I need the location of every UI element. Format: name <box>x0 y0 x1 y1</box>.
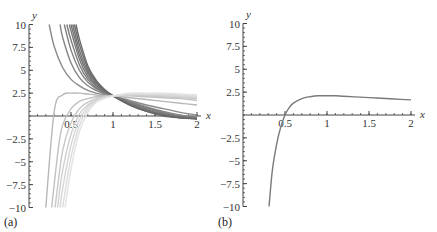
curve-solution <box>269 96 411 207</box>
x-tick-label: 2 <box>408 117 414 129</box>
y-tick-label: −5 <box>14 156 26 168</box>
y-tick-label: −2.5 <box>220 132 240 144</box>
panel-label: (b) <box>218 215 232 229</box>
curve-lower-1 <box>52 96 197 208</box>
y-tick-label: −7.5 <box>6 179 26 191</box>
curve-lower-5 <box>63 94 197 208</box>
x-tick-label: 1 <box>324 117 330 129</box>
y-axis-label: y <box>31 9 37 21</box>
y-tick-label: 5 <box>235 63 241 75</box>
x-tick-label: 1.5 <box>148 118 162 130</box>
y-tick-label: 2.5 <box>12 87 26 99</box>
axes: 0.511.52−10−7.5−5−2.52.557.510xy <box>220 8 425 213</box>
figure: 0.511.52−10−7.5−5−2.52.557.510xy(a) 0.51… <box>0 0 437 232</box>
y-tick-label: 7.5 <box>12 41 26 53</box>
y-tick-label: 10 <box>229 18 241 30</box>
x-axis-label: x <box>419 108 425 120</box>
y-tick-label: 10 <box>15 19 27 31</box>
data-series <box>269 96 411 207</box>
y-tick-label: 5 <box>21 64 27 76</box>
y-tick-label: 2.5 <box>226 86 240 98</box>
x-tick-label: 1.5 <box>362 117 376 129</box>
panel-a-plot: 0.511.52−10−7.5−5−2.52.557.510xy(a) <box>4 9 211 230</box>
panel-label: (a) <box>4 215 17 229</box>
y-axis-label: y <box>245 8 251 20</box>
x-tick-label: 2 <box>194 118 200 130</box>
x-axis-label: x <box>205 109 211 121</box>
y-tick-label: 7.5 <box>226 40 240 52</box>
y-tick-label: −10 <box>9 202 27 214</box>
y-tick-label: −7.5 <box>220 178 240 190</box>
y-tick-label: −10 <box>223 201 241 213</box>
curve-flat-1 <box>46 93 197 208</box>
panel-b-plot: 0.511.52−10−7.5−5−2.52.557.510xy(b) <box>218 8 425 230</box>
y-tick-label: −2.5 <box>6 133 26 145</box>
axes: 0.511.52−10−7.5−5−2.52.557.510xy <box>6 9 211 214</box>
y-tick-label: −5 <box>228 155 240 167</box>
x-tick-label: 1 <box>110 118 116 130</box>
